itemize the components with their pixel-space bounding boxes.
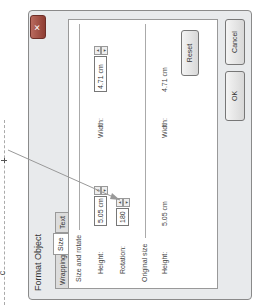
rotated-dialog-wrapper: Format Object ✕ Wrapping Size Text Box S… xyxy=(28,10,252,300)
annotation-tick-stem xyxy=(4,158,5,163)
width-input[interactable]: 4.71 cm xyxy=(94,56,107,92)
close-button[interactable]: ✕ xyxy=(30,15,46,39)
size-tab-panel: Size and rotate Height: 5.05 cm ▲▼ Width… xyxy=(68,19,218,289)
reset-button[interactable]: Reset xyxy=(181,30,199,76)
height-spinner[interactable]: 5.05 cm ▲▼ xyxy=(94,186,107,226)
rotation-spinner[interactable]: 180 ▲▼ xyxy=(116,198,129,226)
spin-up-icon[interactable]: ▲ xyxy=(116,198,123,207)
original-size-heading: Original size xyxy=(141,243,148,282)
spin-up-icon[interactable]: ▲ xyxy=(94,46,101,55)
section-divider xyxy=(145,24,146,238)
cancel-button[interactable]: Cancel xyxy=(225,19,245,65)
annotation-text-fragment: c xyxy=(0,271,7,276)
rotation-label: Rotation: xyxy=(119,246,126,274)
annotation-dotted-line xyxy=(4,120,5,305)
original-width-value: 4.71 cm xyxy=(161,67,168,92)
tab-size[interactable]: Size xyxy=(53,233,69,255)
spin-down-icon[interactable]: ▼ xyxy=(123,198,130,207)
height-input[interactable]: 5.05 cm xyxy=(94,196,107,226)
close-icon: ✕ xyxy=(33,24,42,31)
size-and-rotate-heading: Size and rotate xyxy=(75,235,82,282)
spin-up-icon[interactable]: ▲ xyxy=(94,186,101,195)
height-label: Height: xyxy=(97,252,104,274)
spin-down-icon[interactable]: ▼ xyxy=(101,186,108,195)
width-label: Width: xyxy=(97,118,104,138)
format-object-dialog: Format Object ✕ Wrapping Size Text Box S… xyxy=(28,10,252,300)
original-height-label: Height: xyxy=(161,252,168,274)
tab-wrapping[interactable]: Wrapping xyxy=(55,251,68,289)
dialog-title: Format Object xyxy=(33,234,43,291)
spin-down-icon[interactable]: ▼ xyxy=(101,46,108,55)
original-width-label: Width: xyxy=(161,118,168,138)
original-height-value: 5.05 cm xyxy=(161,201,168,226)
section-divider xyxy=(79,24,80,230)
title-bar[interactable]: Format Object ✕ xyxy=(29,11,49,299)
rotation-input[interactable]: 180 xyxy=(116,208,129,226)
width-spinner[interactable]: 4.71 cm ▲▼ xyxy=(94,46,107,92)
ok-button[interactable]: OK xyxy=(225,71,245,121)
tab-text-box[interactable]: Text Box xyxy=(55,212,68,233)
